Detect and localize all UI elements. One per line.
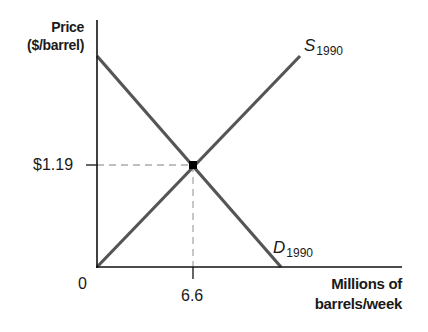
x-axis-label-line-1: Millions of: [315, 274, 402, 294]
supply-curve: [97, 56, 300, 267]
x-tick-label-quantity: 6.6: [181, 287, 203, 305]
demand-label-letter: D: [273, 238, 285, 257]
supply-label-year: 1990: [316, 44, 343, 58]
y-axis-label: Price ($/barrel): [27, 18, 84, 54]
x-axis-label-line-2: barrels/week: [315, 294, 402, 314]
x-axis-label: Millions of barrels/week: [315, 274, 402, 314]
x-tick-label-origin: 0: [78, 275, 87, 293]
supply-curve-label: S1990: [304, 36, 343, 58]
y-axis-label-line-2: ($/barrel): [27, 36, 84, 54]
equilibrium-point: [189, 161, 197, 169]
demand-label-year: 1990: [286, 246, 313, 260]
demand-curve-label: D1990: [273, 238, 313, 260]
y-tick-label-price: $1.19: [33, 156, 73, 174]
supply-label-letter: S: [304, 36, 315, 55]
y-axis-label-line-1: Price: [27, 18, 84, 36]
